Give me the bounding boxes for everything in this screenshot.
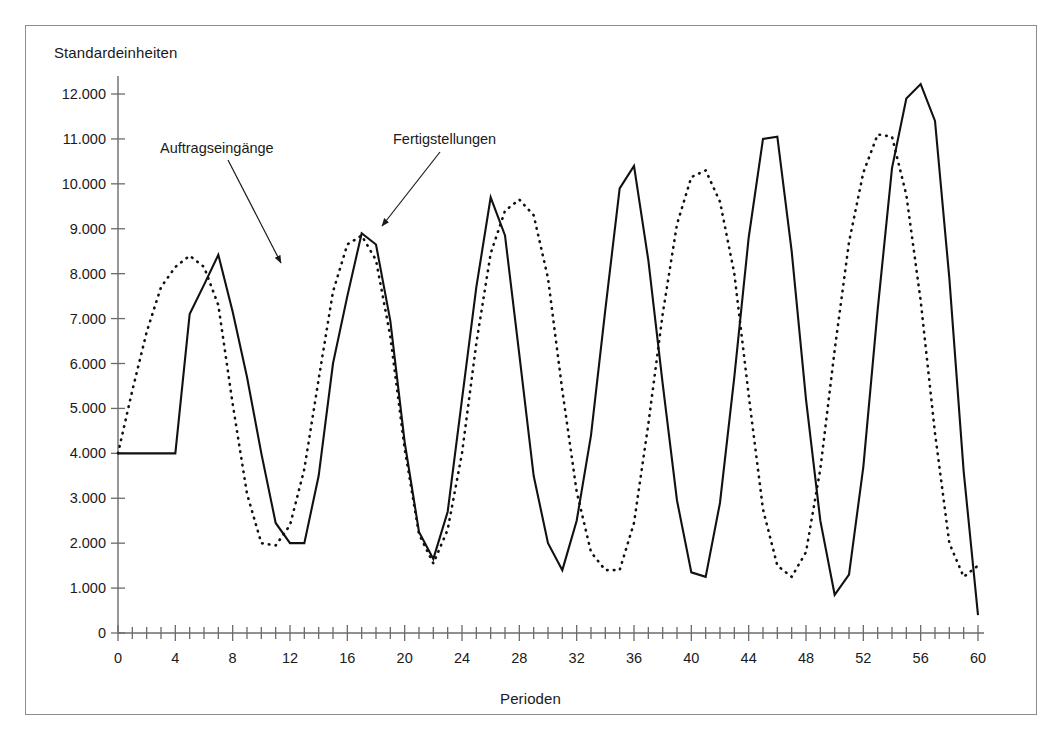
figure-container: Standardeinheiten Perioden Auftragseingä… [0,0,1061,750]
chart-plot-area [0,0,1061,750]
y-tick-label: 10.000 [40,176,106,192]
x-tick-label: 40 [683,650,699,666]
x-tick-label: 28 [511,650,527,666]
series-line-auftragseingaenge [118,84,978,615]
series-line-fertigstellungen [118,134,978,576]
y-tick-label: 12.000 [40,86,106,102]
y-tick-label: 5.000 [40,400,106,416]
y-tick-label: 7.000 [40,311,106,327]
x-tick-label: 24 [454,650,470,666]
y-tick-label: 0 [40,625,106,641]
y-tick-label: 11.000 [40,131,106,147]
x-tick-label: 8 [229,650,237,666]
y-tick-label: 4.000 [40,445,106,461]
x-tick-label: 20 [397,650,413,666]
y-tick-label: 3.000 [40,490,106,506]
x-tick-label: 56 [913,650,929,666]
y-tick-label: 1.000 [40,580,106,596]
annotation-label-auftragseingaenge: Auftragseingänge [160,140,274,156]
x-tick-label: 12 [282,650,298,666]
x-tick-label: 32 [569,650,585,666]
y-tick-label: 8.000 [40,266,106,282]
x-tick-label: 36 [626,650,642,666]
annotation-arrow-orders [228,160,281,263]
x-tick-label: 0 [114,650,122,666]
x-tick-label: 44 [741,650,757,666]
annotation-arrows [228,152,440,263]
y-tick-label: 9.000 [40,221,106,237]
x-tick-label: 16 [339,650,355,666]
annotation-label-fertigstellungen: Fertigstellungen [393,131,496,147]
x-axis-title: Perioden [0,690,1061,707]
x-axis-ticks [118,625,978,641]
annotation-arrow-completions [382,152,440,226]
y-tick-label: 6.000 [40,356,106,372]
x-tick-label: 4 [171,650,179,666]
x-tick-label: 60 [970,650,986,666]
x-tick-label: 52 [855,650,871,666]
y-tick-label: 2.000 [40,535,106,551]
x-tick-label: 48 [798,650,814,666]
y-axis-title: Standardeinheiten [54,44,177,61]
